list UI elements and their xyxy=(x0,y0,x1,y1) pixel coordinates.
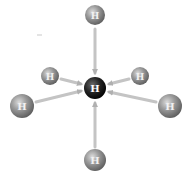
atom-upper-left: H xyxy=(41,67,59,85)
atom-upper-right: H xyxy=(131,67,149,85)
atom-center: H xyxy=(84,77,106,99)
atom-label: H xyxy=(91,11,100,21)
center-atom-label: H xyxy=(90,83,99,94)
atom-label: H xyxy=(136,72,145,82)
arrow-from-left xyxy=(36,91,81,102)
atom-bottom: H xyxy=(84,149,106,171)
arrow-from-upper-left xyxy=(61,79,81,84)
atom-top: H xyxy=(85,5,105,25)
hydrogen-interaction-diagram: H H H H H H H xyxy=(0,0,193,185)
atom-label: H xyxy=(165,101,174,112)
atom-label: H xyxy=(46,72,55,82)
artifact-mark xyxy=(37,34,42,36)
atom-left: H xyxy=(10,94,34,118)
arrow-from-upper-right xyxy=(109,79,129,84)
atom-label: H xyxy=(17,101,26,112)
arrow-from-right xyxy=(109,92,156,102)
atom-right: H xyxy=(158,94,182,118)
atom-label: H xyxy=(90,155,99,166)
